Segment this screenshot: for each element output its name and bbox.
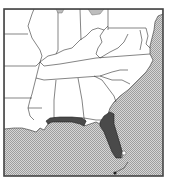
lake-okeechobee (122, 151, 126, 155)
range-map (0, 0, 170, 181)
